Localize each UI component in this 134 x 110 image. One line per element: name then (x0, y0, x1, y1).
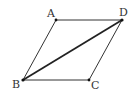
vertex-D-label: D (119, 6, 128, 19)
vertex-B-label: B (12, 78, 20, 91)
parallelogram-diagram: A D B C (0, 0, 134, 110)
diagonal-BD (23, 20, 122, 80)
vertex-A-label: A (46, 7, 56, 20)
vertex-B-point (21, 78, 24, 81)
vertex-A-point (55, 19, 58, 22)
vertex-C-label: C (91, 79, 99, 92)
vertex-C-point (88, 79, 91, 82)
